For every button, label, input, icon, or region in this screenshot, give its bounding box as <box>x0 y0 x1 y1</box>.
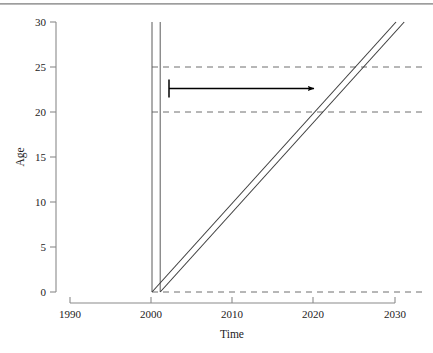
y-axis-tick-label-25: 25 <box>35 61 47 73</box>
x-axis-tick-label-2010: 2010 <box>221 308 244 320</box>
y-axis-tick-label-0: 0 <box>41 286 47 298</box>
x-axis: 1990 2000 2010 2020 2030 Time <box>59 297 407 340</box>
y-axis-tick-label-15: 15 <box>35 151 47 163</box>
cohort-lifeline-2001 <box>160 22 404 292</box>
y-axis-tick-label-30: 30 <box>35 16 47 28</box>
birth-boundary-lines <box>152 22 160 292</box>
x-axis-tick-label-2030: 2030 <box>384 308 407 320</box>
lexis-diagram-figure: 30 25 20 15 10 5 0 Age 1990 2000 2010 20… <box>0 0 433 353</box>
y-axis-tick-label-5: 5 <box>41 241 47 253</box>
follow-up-arrow-annotation <box>169 80 314 98</box>
x-axis-tick-label-2000: 2000 <box>140 308 163 320</box>
age-reference-lines <box>152 67 424 292</box>
y-axis: 30 25 20 15 10 5 0 Age <box>14 16 56 298</box>
x-axis-tick-label-1990: 1990 <box>59 308 82 320</box>
cohort-lifeline-2000 <box>152 22 396 292</box>
y-axis-title: Age <box>14 147 27 166</box>
y-axis-tick-label-10: 10 <box>35 196 47 208</box>
x-axis-tick-label-2020: 2020 <box>302 308 325 320</box>
chart-canvas: 30 25 20 15 10 5 0 Age 1990 2000 2010 20… <box>0 0 433 353</box>
cohort-lifelines <box>152 22 404 292</box>
y-axis-tick-label-20: 20 <box>35 106 47 118</box>
x-axis-title: Time <box>220 328 244 340</box>
